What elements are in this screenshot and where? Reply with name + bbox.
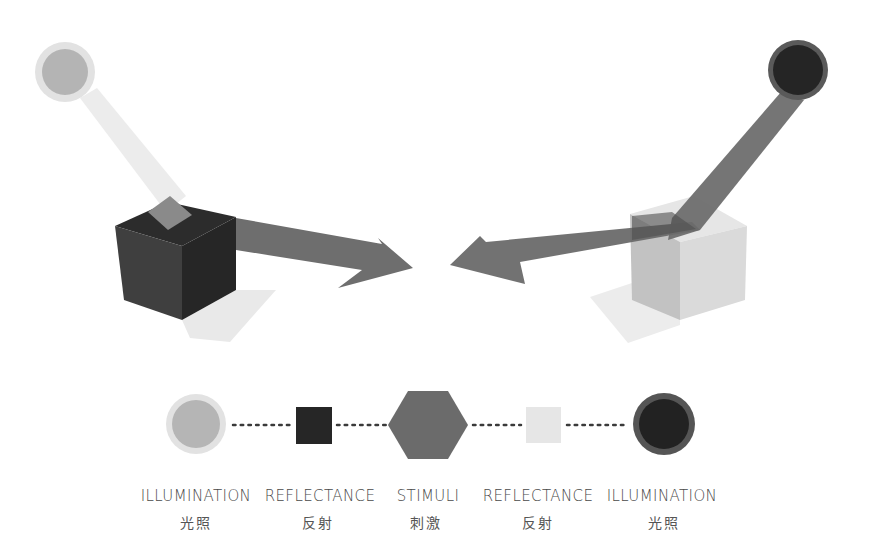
label-illumination-zh: 光照 — [648, 512, 680, 532]
legend-light-illumination — [172, 400, 220, 448]
left-light-beam — [80, 88, 186, 212]
left-reflected-arrow — [236, 218, 413, 288]
illumination-reflectance-diagram — [0, 0, 885, 536]
label-reflectance: REFLECTANCE — [483, 487, 594, 505]
legend-row — [166, 391, 695, 459]
label-illumination-zh: 光照 — [180, 512, 212, 532]
label-illumination: ILLUMINATION — [141, 487, 251, 505]
label-reflectance-zh: 反射 — [522, 512, 554, 532]
right-scene — [450, 40, 828, 343]
label-reflectance-zh: 反射 — [302, 512, 334, 532]
label-illumination: ILLUMINATION — [607, 487, 717, 505]
left-scene — [35, 42, 413, 342]
label-stimuli: STIMULI — [397, 487, 460, 505]
legend-light-reflectance — [526, 407, 561, 443]
legend-stimuli-hexagon — [388, 391, 468, 459]
right-cube-right — [680, 226, 747, 320]
legend-labels-zh: 光照 反射 刺激 反射 光照 — [0, 0, 885, 20]
left-light-source — [42, 49, 88, 95]
legend-dark-reflectance — [296, 407, 332, 444]
legend-dark-illumination — [639, 399, 689, 449]
right-dark-source — [773, 45, 823, 95]
label-reflectance: REFLECTANCE — [265, 487, 376, 505]
label-stimuli-zh: 刺激 — [410, 512, 442, 532]
right-dark-beam — [668, 92, 804, 240]
